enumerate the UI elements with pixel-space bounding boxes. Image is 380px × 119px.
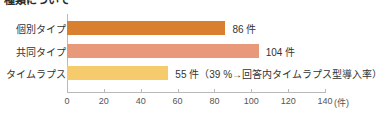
bar-shared-type[interactable] (67, 44, 259, 58)
x-tick-mark-20 (104, 89, 105, 92)
x-tick-label-100: 100 (244, 96, 259, 106)
category-label-2: タイムラプス (6, 66, 66, 81)
x-tick-mark-120 (288, 89, 289, 92)
bar-timelapse[interactable] (67, 66, 168, 80)
category-label-0: 個別タイプ (16, 21, 66, 36)
bar-value-label-1: 104 件 (266, 44, 295, 59)
x-tick-label-0: 0 (64, 96, 69, 106)
bar-individual-type[interactable] (67, 21, 225, 35)
x-tick-label-60: 60 (173, 96, 183, 106)
x-tick-mark-140 (325, 89, 326, 92)
x-tick-label-20: 20 (99, 96, 109, 106)
x-tick-label-120: 120 (281, 96, 296, 106)
x-tick-mark-40 (141, 89, 142, 92)
x-tick-mark-0 (67, 89, 68, 92)
bar-value-label-0: 86 件 (232, 21, 256, 36)
x-tick-mark-60 (178, 89, 179, 92)
x-axis-unit-label: (件) (334, 96, 349, 109)
category-label-1: 共同タイプ (16, 44, 66, 59)
x-tick-label-40: 40 (136, 96, 146, 106)
bar-value-label-2: 55 件（39 %→回答内タイムラプス型導入率） (175, 66, 380, 81)
chart-title: 種類について (4, 0, 70, 7)
x-tick-mark-100 (251, 89, 252, 92)
x-tick-label-140: 140 (317, 96, 332, 106)
x-axis-line (67, 92, 326, 93)
x-tick-mark-80 (214, 89, 215, 92)
x-tick-label-80: 80 (209, 96, 219, 106)
